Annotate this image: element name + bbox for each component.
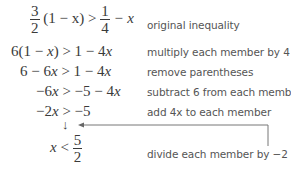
connector-arrow-icon (0, 0, 291, 169)
